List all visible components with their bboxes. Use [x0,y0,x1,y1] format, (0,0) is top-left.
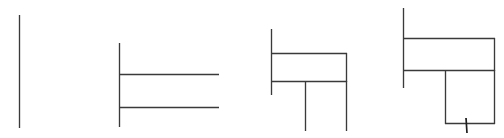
bottom-tick-mark [466,118,467,133]
panel-3-closed-box-with-two-legs [271,29,347,131]
drawing-canvas [0,0,504,138]
line-drawing-figure [0,0,504,138]
panel-4-stacked-boxes-with-tick [403,8,495,133]
panel-2-vertical-with-two-horizontals [119,43,219,127]
